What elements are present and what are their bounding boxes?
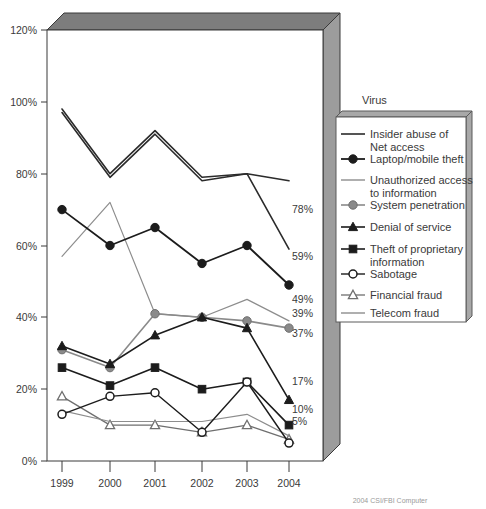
data-point: [151, 223, 159, 231]
end-label-sabotage: 5%: [292, 415, 307, 427]
legend-box-shadow-right: [466, 111, 472, 322]
y-tick-label-120: 120%: [10, 24, 37, 36]
x-tick-label-2002: 2002: [190, 477, 214, 489]
end-label-laptop: 49%: [292, 293, 313, 305]
x-tick-label-2000: 2000: [98, 477, 122, 489]
data-point: [198, 385, 206, 393]
legend-swatch-marker: [349, 245, 357, 253]
data-point: [106, 392, 114, 400]
y-tick-label-60: 60%: [16, 240, 37, 252]
y-tick-label-20: 20%: [16, 383, 37, 395]
end-label-dos: 17%: [292, 375, 313, 387]
legend-title: Virus: [362, 94, 387, 106]
data-point: [285, 281, 293, 289]
end-label-theft: 10%: [292, 403, 313, 415]
plot-top-face: [47, 13, 340, 30]
legend-box-shadow-top: [336, 111, 472, 117]
legend-item-label: Financial fraud: [370, 289, 442, 301]
y-tick-label-80: 80%: [16, 168, 37, 180]
x-tick-label-1999: 1999: [50, 477, 74, 489]
data-point: [198, 428, 206, 436]
data-point: [58, 410, 66, 418]
legend-item-label-line2: to information: [370, 187, 437, 199]
legend-item-label-line2: Net access: [370, 141, 425, 153]
data-point: [151, 389, 159, 397]
chart-figure: 120% 100% 80% 60% 40% 20% 0% 1999 2000 2…: [0, 0, 486, 509]
end-label-unauthorized: 39%: [292, 307, 313, 319]
legend-item-label: Theft of proprietary: [370, 243, 463, 255]
y-axis: 120% 100% 80% 60% 40% 20% 0%: [10, 24, 47, 467]
legend-item-label: Sabotage: [370, 268, 417, 280]
end-label-virus: 78%: [292, 203, 313, 215]
y-tick-label-40: 40%: [16, 311, 37, 323]
legend: Virus Insider abuse ofNet accessLaptop/m…: [336, 94, 473, 322]
data-point: [243, 241, 251, 249]
x-tick-label-2001: 2001: [143, 477, 167, 489]
legend-item-label: Insider abuse of: [370, 128, 449, 140]
data-point: [106, 382, 114, 390]
data-point: [243, 378, 251, 386]
plot-front-face: [47, 30, 323, 461]
legend-item-label: Unauthorized access: [370, 174, 473, 186]
data-point: [198, 259, 206, 267]
chart-canvas: 120% 100% 80% 60% 40% 20% 0% 1999 2000 2…: [0, 0, 486, 509]
plot-area-3d-box: [47, 13, 340, 461]
end-label-syspen: 37%: [292, 327, 313, 339]
y-tick-label-0: 0%: [22, 455, 37, 467]
data-point: [58, 205, 66, 213]
data-point: [151, 364, 159, 372]
legend-swatch-marker: [349, 155, 357, 163]
legend-item-sabotage[interactable]: Sabotage: [341, 268, 417, 280]
x-tick-label-2003: 2003: [235, 477, 259, 489]
data-point: [58, 364, 66, 372]
legend-swatch-marker: [349, 270, 357, 278]
data-point: [151, 310, 159, 318]
legend-item-label: Denial of service: [370, 221, 451, 233]
data-point: [285, 439, 293, 447]
x-tick-label-2004: 2004: [277, 477, 301, 489]
x-axis: 1999 2000 2001 2002 2003 2004: [50, 461, 301, 489]
legend-item-label: Laptop/mobile theft: [370, 153, 464, 165]
y-tick-label-100: 100%: [10, 96, 37, 108]
legend-item-label-line2: information: [370, 256, 424, 268]
data-point: [106, 241, 114, 249]
legend-item-label: System penetration: [370, 199, 465, 211]
legend-item-label: Telecom fraud: [370, 307, 439, 319]
legend-swatch-marker: [349, 201, 357, 209]
footer-note: 2004 CSI/FBI Computer: [353, 497, 428, 505]
end-label-insider: 59%: [292, 250, 313, 262]
